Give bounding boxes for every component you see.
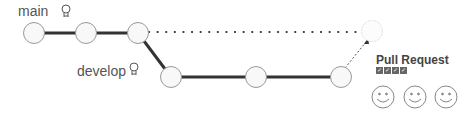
develop-lightbulb-icon <box>130 63 138 75</box>
pull-request-checks: ✓ ✓ ✓ ✓ <box>376 67 407 74</box>
check-icon: ✓ <box>392 67 399 74</box>
check-icon: ✓ <box>400 67 407 74</box>
develop-commit-3[interactable] <box>331 67 352 88</box>
reviewer-smiley-icon <box>404 86 426 108</box>
reviewer-smiley-icon <box>435 86 457 108</box>
reviewer-smiley-icon <box>372 86 394 108</box>
develop-branch-label: develop <box>77 63 126 79</box>
main-lightbulb-icon <box>62 5 70 17</box>
merge-arrow-line <box>345 42 366 68</box>
develop-commit-1[interactable] <box>161 67 182 88</box>
check-icon: ✓ <box>376 67 383 74</box>
main-commit-2[interactable] <box>76 23 97 44</box>
future-merge-commit <box>362 21 383 42</box>
main-commit-3[interactable] <box>128 23 149 44</box>
develop-commit-2[interactable] <box>246 67 267 88</box>
main-commit-1[interactable] <box>24 23 45 44</box>
pull-request-title: Pull Request <box>376 53 449 67</box>
check-icon: ✓ <box>384 67 391 74</box>
main-branch-label: main <box>18 3 48 19</box>
